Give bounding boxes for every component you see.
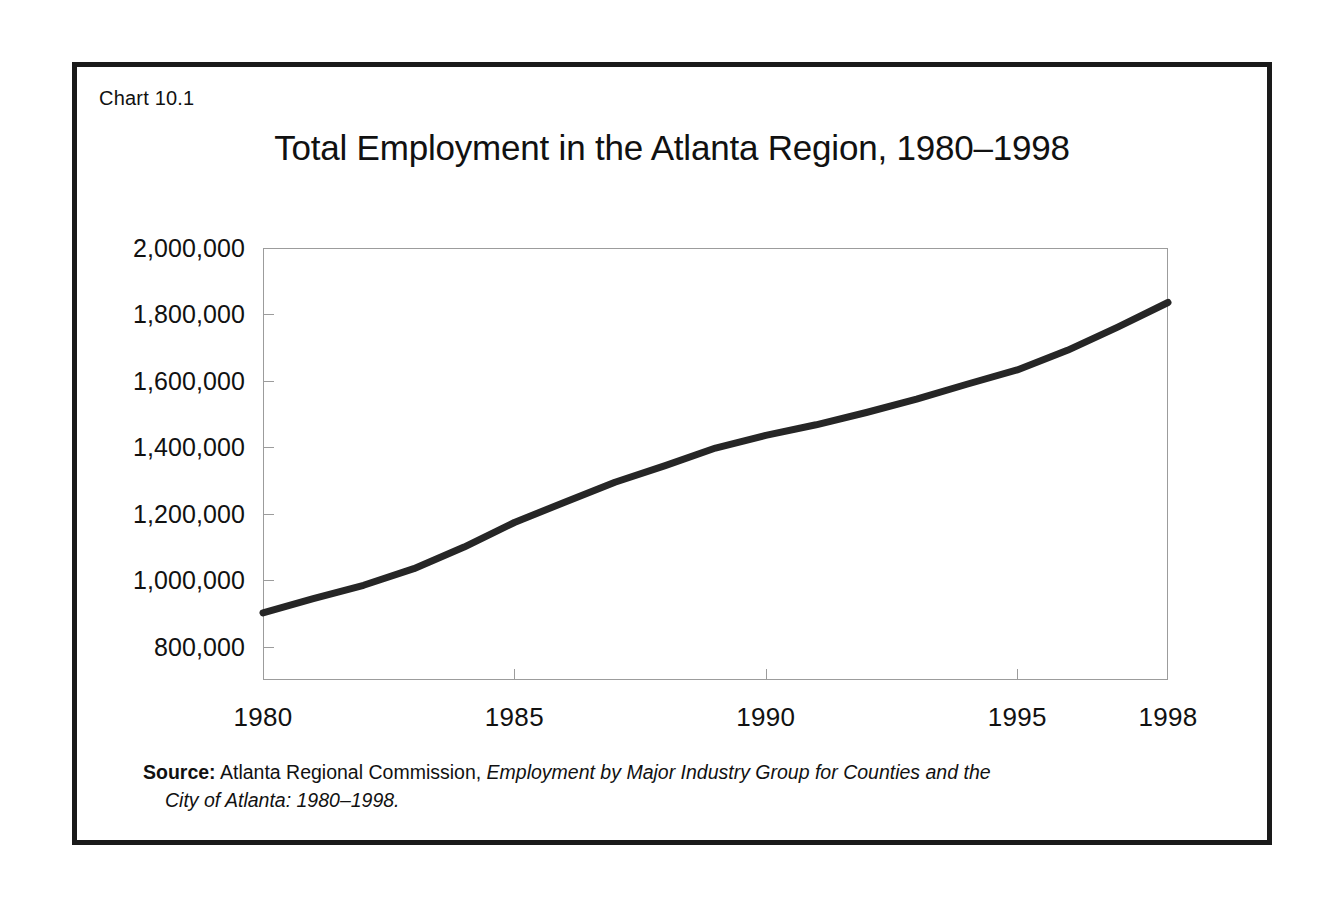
y-axis-tick-label: 800,000 bbox=[154, 632, 245, 661]
source-publication-title: Employment by Major Industry Group for C… bbox=[487, 761, 991, 783]
source-note: Source: Atlanta Regional Commission, Emp… bbox=[143, 758, 1163, 815]
chart-title: Total Employment in the Atlanta Region, … bbox=[77, 128, 1267, 168]
chart-frame: Chart 10.1 Total Employment in the Atlan… bbox=[72, 62, 1272, 845]
x-axis-tick-label: 1990 bbox=[736, 702, 795, 733]
chart-page: Chart 10.1 Total Employment in the Atlan… bbox=[0, 0, 1336, 897]
chart-number-label: Chart 10.1 bbox=[99, 87, 194, 110]
y-axis-tick-label: 1,400,000 bbox=[133, 433, 245, 462]
source-publication-subtitle: City of Atlanta: 1980–1998. bbox=[165, 786, 1163, 814]
y-axis-tick-label: 1,800,000 bbox=[133, 300, 245, 329]
source-organization: Atlanta Regional Commission, bbox=[216, 761, 487, 783]
y-axis-tick-label: 1,600,000 bbox=[133, 366, 245, 395]
y-axis-tick-label: 2,000,000 bbox=[133, 234, 245, 263]
source-label: Source: bbox=[143, 761, 216, 783]
y-axis-tick-label: 1,200,000 bbox=[133, 499, 245, 528]
y-axis-tick-label: 1,000,000 bbox=[133, 566, 245, 595]
x-axis-tick-label: 1998 bbox=[1138, 702, 1197, 733]
series-line-total-employment bbox=[263, 303, 1168, 613]
x-axis-tick-label: 1995 bbox=[988, 702, 1047, 733]
plot-wrap: 800,0001,000,0001,200,0001,400,0001,600,… bbox=[263, 248, 1168, 680]
line-series-svg bbox=[263, 248, 1168, 680]
x-axis-tick-label: 1985 bbox=[485, 702, 544, 733]
x-axis-tick-label: 1980 bbox=[233, 702, 292, 733]
